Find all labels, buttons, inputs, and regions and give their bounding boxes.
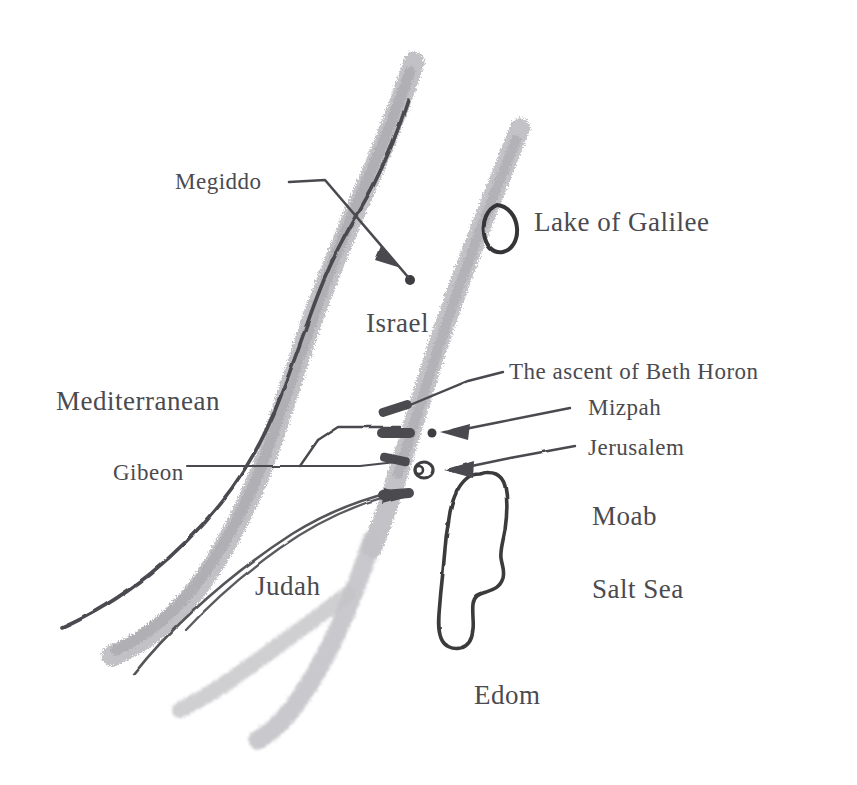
jerusalem-marker (415, 462, 433, 478)
ridge-bands (112, 62, 520, 656)
label-salt-sea: Salt Sea (592, 576, 684, 603)
label-israel: Israel (366, 310, 429, 337)
gibeon-leader-riser-down (300, 440, 318, 466)
label-gibeon: Gibeon (113, 461, 184, 484)
jerusalem-leader-arrowhead (444, 461, 474, 478)
mizpah-leader (455, 408, 570, 431)
label-lake-of-galilee: Lake of Galilee (534, 209, 709, 236)
label-beth-horon: The ascent of Beth Horon (509, 360, 759, 383)
label-mizpah: Mizpah (588, 396, 661, 419)
mizpah-marker (428, 429, 437, 438)
label-moab: Moab (592, 503, 657, 530)
label-jerusalem: Jerusalem (588, 436, 684, 459)
label-megiddo: Megiddo (175, 170, 262, 193)
map-figure: Megiddo Lake of Galilee Israel The ascen… (0, 0, 857, 785)
gibeon-leader-step (300, 462, 396, 466)
jerusalem-leader (462, 446, 575, 468)
eastern-hill-ridge-core (398, 140, 516, 474)
salt-sea-outline (439, 473, 507, 649)
label-judah: Judah (255, 573, 321, 600)
megiddo-leader-arrowhead (375, 246, 401, 268)
label-mediterranean: Mediterranean (56, 388, 220, 415)
mizpah-leader-arrowhead (440, 424, 470, 440)
label-edom: Edom (474, 682, 541, 709)
